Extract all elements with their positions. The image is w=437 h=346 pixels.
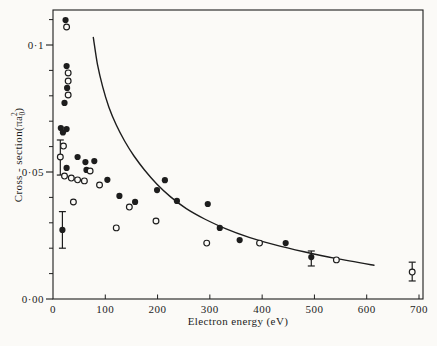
- data-point-open-circle: [257, 240, 263, 246]
- x-tick-label: 500: [305, 303, 323, 315]
- data-point-open-circle: [65, 78, 71, 84]
- data-point-filled-circle: [154, 187, 160, 193]
- data-point-filled-circle: [61, 100, 67, 106]
- data-point-open-circle: [204, 240, 210, 246]
- theory-curve-path: [93, 37, 374, 265]
- data-point-open-circle: [70, 199, 76, 205]
- data-point-filled-circle: [217, 225, 223, 231]
- x-tick-label: 600: [358, 303, 376, 315]
- data-point-open-circle: [65, 92, 71, 98]
- theory-curve: [93, 37, 374, 265]
- data-point-filled-circle: [64, 85, 70, 91]
- data-point-filled-circle: [62, 17, 68, 23]
- axis-ticks: [46, 20, 419, 299]
- x-tick-label: 700: [410, 303, 428, 315]
- y-tick-label: 0·05: [22, 166, 44, 178]
- x-tick-label: 100: [96, 303, 114, 315]
- data-point-filled-circle: [116, 193, 122, 199]
- data-point-open-circle: [64, 24, 70, 30]
- data-point-open-circle: [126, 204, 132, 210]
- data-point-filled-circle: [59, 227, 65, 233]
- plot-frame: [53, 10, 423, 299]
- data-point-filled-circle: [63, 165, 69, 171]
- tick-labels: 01002003004005006007000·000·050·1: [22, 39, 428, 315]
- data-points: [57, 17, 415, 275]
- data-point-open-circle: [113, 225, 119, 231]
- x-tick-label: 0: [50, 303, 56, 315]
- data-point-filled-circle: [174, 198, 180, 204]
- error-bars: [57, 140, 416, 281]
- data-point-open-circle: [97, 182, 103, 188]
- data-point-filled-circle: [237, 237, 243, 243]
- x-tick-label: 300: [201, 303, 219, 315]
- data-point-open-circle: [333, 257, 339, 263]
- data-point-filled-circle: [63, 63, 69, 69]
- data-point-filled-circle: [91, 158, 97, 164]
- y-axis-title: Cross - section(πa02): [10, 108, 27, 203]
- data-point-filled-circle: [162, 177, 168, 183]
- data-point-filled-circle: [308, 254, 314, 260]
- data-point-open-circle: [65, 70, 71, 76]
- data-point-open-circle: [409, 269, 415, 275]
- data-point-open-circle: [57, 154, 63, 160]
- data-point-filled-circle: [104, 177, 110, 183]
- data-point-filled-circle: [205, 201, 211, 207]
- x-tick-label: 400: [253, 303, 271, 315]
- data-point-open-circle: [87, 168, 93, 174]
- data-point-open-circle: [153, 218, 159, 224]
- data-point-filled-circle: [132, 199, 138, 205]
- y-tick-label: 0·1: [28, 39, 44, 51]
- y-tick-label: 0·00: [22, 293, 44, 305]
- data-point-open-circle: [62, 173, 68, 179]
- data-point-filled-circle: [283, 240, 289, 246]
- x-tick-label: 200: [149, 303, 167, 315]
- data-point-filled-circle: [82, 159, 88, 165]
- data-point-open-circle: [61, 143, 67, 149]
- x-axis-title: Electron energy (eV): [188, 315, 289, 328]
- y-axis-title-text: Cross - section(πa02): [10, 108, 27, 203]
- scatter-plot-canvas: 01002003004005006007000·000·050·1 Electr…: [0, 0, 437, 346]
- figure: 01002003004005006007000·000·050·1 Electr…: [0, 0, 437, 346]
- data-point-open-circle: [81, 178, 87, 184]
- data-point-open-circle: [68, 175, 74, 181]
- data-point-open-circle: [75, 177, 81, 183]
- data-point-filled-circle: [74, 154, 80, 160]
- data-point-filled-circle: [60, 129, 66, 135]
